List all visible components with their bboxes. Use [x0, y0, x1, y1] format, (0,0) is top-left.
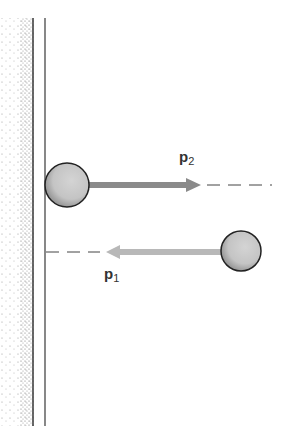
diagram-canvas [0, 0, 281, 444]
ball-after [45, 163, 89, 207]
ball-before [221, 231, 261, 271]
p2-label: p2 [179, 148, 194, 167]
p2-arrow-shaft [89, 182, 189, 188]
p1-arrow-shaft [118, 249, 222, 255]
p1-arrow-head [106, 245, 120, 259]
wall-shading-dense [20, 18, 34, 426]
p1-label: p1 [104, 265, 119, 284]
ball-after-group [45, 163, 272, 207]
p2-arrow-head [186, 178, 201, 192]
wall [0, 18, 45, 426]
ball-before-group [46, 231, 261, 271]
